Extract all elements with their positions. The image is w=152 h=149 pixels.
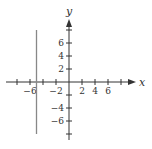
y-tick-label: −6 (51, 116, 65, 126)
y-axis-arrow-icon (66, 19, 72, 27)
y-tick-label: 4 (58, 51, 64, 61)
y-tick-label: 6 (58, 38, 64, 48)
x-axis: −6−2246 (6, 79, 136, 96)
x-tick-label: 6 (105, 86, 111, 96)
x-axis-label: x (139, 76, 146, 89)
y-axis: 642−4−6 (51, 19, 72, 140)
x-tick-label: 2 (79, 86, 85, 96)
x-tick-label: −6 (23, 86, 37, 96)
x-tick-label: 4 (92, 86, 98, 96)
x-axis-arrow-icon (128, 79, 136, 85)
y-axis-label: y (65, 5, 73, 18)
x-tick-label: −2 (49, 86, 62, 96)
coordinate-plane: −6−2246 642−4−6 x y (0, 0, 152, 149)
y-tick-label: 2 (58, 64, 64, 74)
y-tick-label: −4 (51, 103, 65, 113)
